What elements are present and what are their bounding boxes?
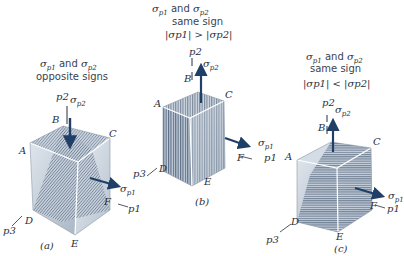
vertex-a-a: A <box>18 145 26 156</box>
axis-label-p2-c: p2 <box>322 97 335 108</box>
panel-b-condition-line3: |σp1| > |σp2| <box>165 29 232 41</box>
vertex-c-b: C <box>225 89 233 100</box>
vertex-f-b: F <box>236 152 245 163</box>
panel-a: σp1 and σp2 opposite signs p2 σp2 B A C … <box>3 58 141 251</box>
vertex-b-b: B <box>183 73 191 84</box>
vertex-b-c: B <box>317 122 325 133</box>
vertex-f-a: F <box>103 196 112 207</box>
axis-label-p3-a: p3 <box>3 225 16 236</box>
vertex-e-b: E <box>203 176 212 187</box>
sigma-p1-label-a: σp1 <box>120 183 136 197</box>
panel-c-condition-line3: |σp1| < |σp2| <box>303 78 370 90</box>
sigma-p1-arrow-b <box>225 138 248 146</box>
caption-a: (a) <box>40 240 54 251</box>
axis-label-p1-a: p1 <box>128 203 141 214</box>
axis-label-p3-b: p3 <box>133 168 146 179</box>
vertex-b-a: B <box>51 114 59 125</box>
axis-label-p2-a: p2 <box>56 91 69 102</box>
vertex-e-a: E <box>70 238 79 249</box>
sigma-p2-label-b: σp2 <box>203 58 219 72</box>
cube-b-front-left-face <box>163 107 192 186</box>
vertex-d-b: D <box>158 163 167 174</box>
caption-c: (c) <box>334 243 348 254</box>
vertex-f-c: F <box>369 200 378 211</box>
stress-cube-diagram: σp1 and σp2 opposite signs p2 σp2 B A C … <box>0 0 404 256</box>
panel-b: σp1 and σp2 same sign |σp1| > |σp2| p2 σ… <box>133 3 277 207</box>
sigma-p2-label-c: σp2 <box>335 104 351 118</box>
vertex-d-a: D <box>24 215 33 226</box>
sigma-p1-label-b: σp1 <box>258 137 274 151</box>
vertex-c-a: C <box>109 128 117 139</box>
sigma-p2-label-a: σp2 <box>70 94 86 108</box>
panel-a-condition-line1: σp1 and σp2 <box>40 58 97 72</box>
panel-c-condition-line2: same sign <box>310 63 361 74</box>
vertex-d-c: D <box>290 216 299 227</box>
axis-label-p3-c: p3 <box>266 234 279 245</box>
sigma-p1-label-c: σp1 <box>388 190 404 204</box>
axis-label-p1-b: p1 <box>264 152 277 163</box>
panel-b-condition-line2: same sign <box>172 16 223 27</box>
axis-label-p2-b: p2 <box>189 46 202 57</box>
panel-c: σp1 and σp2 same sign |σp1| < |σp2| p2 σ… <box>266 51 404 254</box>
caption-b: (b) <box>195 196 209 207</box>
vertex-a-b: A <box>153 98 161 109</box>
panel-a-condition-line2: opposite signs <box>36 71 108 82</box>
vertex-c-c: C <box>373 136 381 147</box>
vertex-a-c: A <box>284 151 292 162</box>
panel-b-condition-line1: σp1 and σp2 <box>152 3 209 17</box>
axis-label-p1-c: p1 <box>387 203 400 214</box>
vertex-e-c: E <box>335 231 344 242</box>
